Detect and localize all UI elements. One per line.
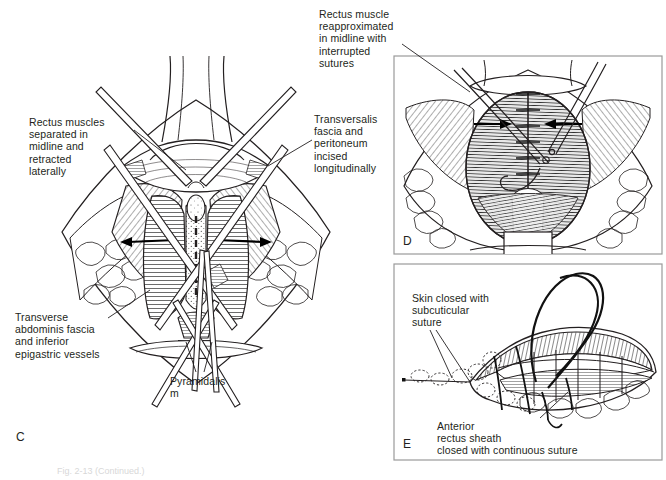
panel-letter-d: D xyxy=(403,234,412,248)
panel-letter-e: E xyxy=(403,437,411,451)
label-transversalis-fascia: Transversalis fascia and peritoneum inci… xyxy=(314,113,418,174)
label-rectus-muscles-separated: Rectus muscles separated in midline and … xyxy=(29,116,125,177)
label-skin-closed-subcuticular: Skin closed with subcuticular suture xyxy=(412,292,520,329)
label-transverse-abdominis-fascia: Transverse abdominis fascia and inferior… xyxy=(15,311,123,360)
label-anterior-rectus-sheath: Anterior rectus sheath closed with conti… xyxy=(437,420,617,457)
label-rectus-reapproximated: Rectus muscle reapproximated in midline … xyxy=(319,8,419,69)
label-pyramidalis: Pyramidalis m xyxy=(170,375,250,399)
figure-caption: Fig. 2-13 (Continued.) xyxy=(57,466,145,479)
figure-artwork xyxy=(0,0,666,480)
panel-letter-c: C xyxy=(16,430,25,444)
panel-d-artwork xyxy=(404,60,652,258)
